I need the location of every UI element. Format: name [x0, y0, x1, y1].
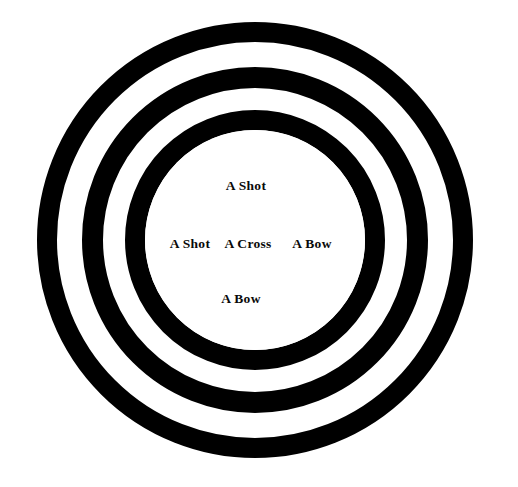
figure-root: A Shot A Shot A Cross A Bow A Bow: [0, 0, 518, 487]
label-a-bow-right: A Bow: [292, 237, 331, 251]
label-a-cross-center: A Cross: [224, 237, 271, 251]
label-a-bow-bottom: A Bow: [221, 292, 260, 306]
label-a-shot-top: A Shot: [226, 179, 266, 193]
label-a-shot-left: A Shot: [170, 237, 210, 251]
